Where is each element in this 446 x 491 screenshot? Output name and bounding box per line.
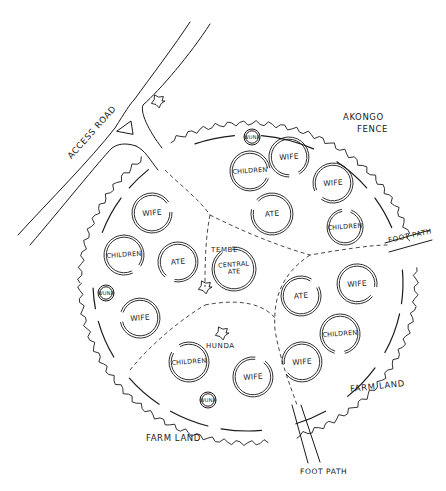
- hedge-segment: [262, 136, 314, 149]
- hedge-segment: [129, 170, 148, 188]
- access-road-branch-lower: [136, 146, 158, 170]
- homestead-diagram: ACCESS ROAD AKONGO FENCE FOOT PATH FOOT …: [0, 0, 446, 491]
- hunda-label: HUNDA: [206, 343, 235, 350]
- hedge-segment: [129, 378, 159, 404]
- tembe-label: TEMBE: [211, 247, 238, 254]
- hedge-segment: [385, 314, 400, 353]
- hut-label: WIFE: [292, 358, 312, 367]
- hut-label: WIFE: [347, 280, 367, 289]
- dashed-path-hunda-top: [205, 302, 275, 318]
- hedge-segment: [221, 429, 261, 431]
- hedge-segment: [98, 321, 114, 357]
- tree-icon: [198, 281, 212, 294]
- hedge-segment: [296, 411, 326, 424]
- granary-label: WUNA: [98, 291, 115, 296]
- hedge-segment: [375, 198, 392, 228]
- akongo-label: AKONGO: [343, 113, 384, 122]
- hut-label: WIFE: [130, 314, 150, 323]
- hut-label: ATE: [171, 258, 186, 266]
- dashed-path-top: [165, 170, 210, 215]
- hut-label: WIFE: [243, 373, 263, 382]
- hut-label: WIFE: [279, 153, 299, 162]
- hedge-segment: [195, 136, 235, 144]
- dashed-path-tembe-left: [205, 215, 210, 287]
- fence-label: FENCE: [357, 125, 388, 134]
- hedge-segment: [93, 288, 95, 309]
- tree-icon: [215, 327, 229, 340]
- hut-label: ATE: [265, 210, 280, 218]
- farm-land-bottom-label: FARM LAND: [146, 434, 201, 443]
- hut-label: WIFE: [323, 179, 343, 188]
- granary-label: WUNA: [244, 135, 261, 140]
- foot-path-bottom-left: [292, 405, 308, 463]
- hut-label: ATE: [294, 292, 309, 300]
- foot-path-bottom-label: FOOT PATH: [300, 468, 347, 476]
- roads: [18, 22, 432, 463]
- tree-icon: [151, 95, 165, 108]
- road-arrow: [117, 121, 133, 134]
- hut-label: WIFE: [142, 209, 162, 218]
- hut-label: CENTRALATE: [218, 260, 250, 277]
- hedge-segment: [171, 411, 208, 426]
- granary-label: WUNA: [200, 398, 217, 403]
- hedge-segment: [402, 270, 403, 304]
- access-road-edge-inner: [30, 144, 136, 245]
